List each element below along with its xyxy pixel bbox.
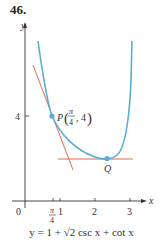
y-tick-4: 4 — [15, 111, 20, 122]
label-q: Q — [104, 163, 112, 174]
function-caption: y = 1 + √2 csc x + cot x — [0, 226, 163, 238]
x-tick-2: 2 — [92, 206, 97, 217]
svg-text:, 4: , 4 — [76, 112, 86, 123]
x-axis-arrow-icon — [141, 199, 147, 203]
label-p: P ( π 4 , 4 ) — [56, 107, 92, 127]
svg-text:P: P — [56, 112, 63, 123]
y-axis-label: y — [20, 20, 26, 31]
point-p — [49, 113, 54, 118]
x-tick-pi-over-4: π — [50, 206, 55, 215]
svg-text:4: 4 — [69, 118, 73, 127]
x-tick-3: 3 — [127, 206, 132, 217]
origin-label: 0 — [16, 206, 21, 217]
point-q — [104, 156, 109, 161]
svg-text:4: 4 — [50, 216, 54, 225]
svg-text:π: π — [69, 107, 74, 116]
svg-text:): ) — [87, 110, 92, 127]
curve — [38, 41, 132, 159]
x-axis-label: x — [148, 195, 154, 206]
x-tick-1: 1 — [58, 206, 63, 217]
chart: y x 4 0 π 4 1 2 3 P ( π 4 , 4 ) Q — [0, 0, 163, 245]
